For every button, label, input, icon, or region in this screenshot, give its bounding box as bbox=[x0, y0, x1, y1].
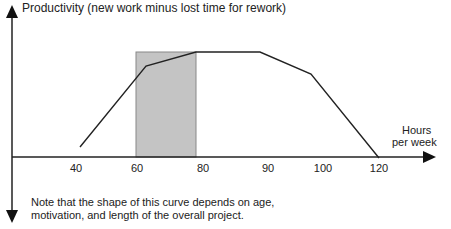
tick-90: 90 bbox=[262, 162, 274, 174]
chart-canvas bbox=[0, 0, 451, 229]
tick-40: 40 bbox=[70, 162, 82, 174]
tick-120: 120 bbox=[370, 162, 388, 174]
y-axis-down-arrow-icon bbox=[6, 210, 18, 223]
tick-60: 60 bbox=[131, 162, 143, 174]
tick-100: 100 bbox=[314, 162, 332, 174]
note-line1: Note that the shape of this curve depend… bbox=[31, 196, 274, 209]
tick-80: 80 bbox=[197, 162, 209, 174]
note-line2: motivation, and length of the overall pr… bbox=[31, 209, 244, 222]
productivity-curve bbox=[80, 52, 379, 158]
x-axis-label-line2: per week bbox=[392, 136, 437, 149]
y-axis-label: Productivity (new work minus lost time f… bbox=[22, 2, 286, 15]
x-axis-arrow-icon bbox=[423, 151, 436, 163]
y-axis-up-arrow-icon bbox=[6, 5, 18, 18]
